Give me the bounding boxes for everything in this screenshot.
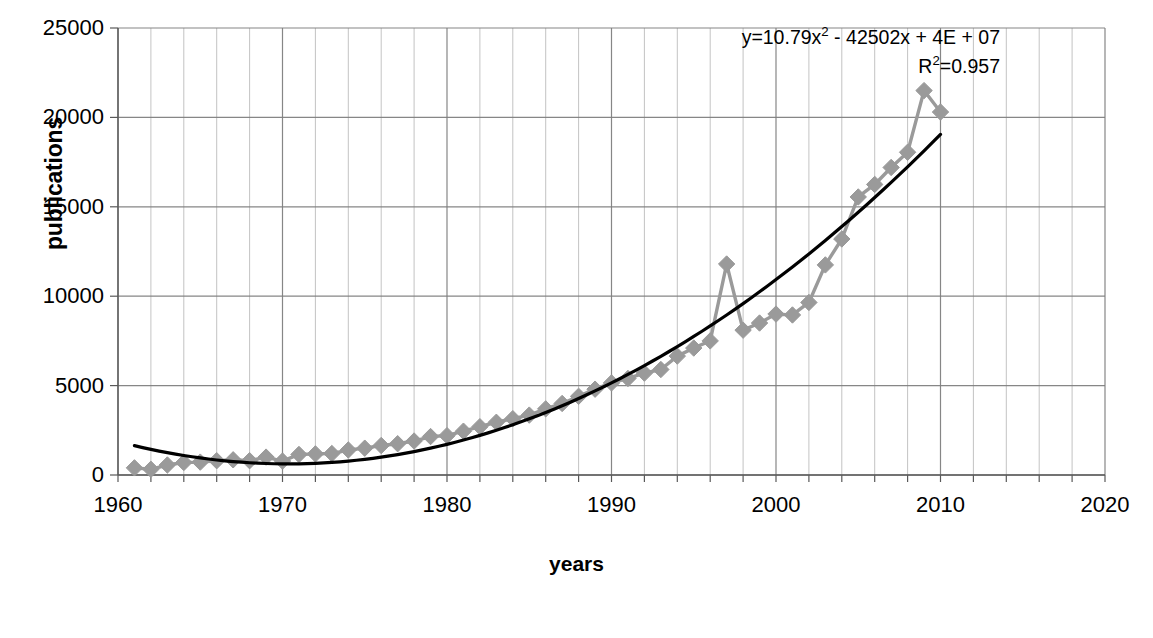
r-squared-label: R <box>918 54 932 76</box>
data-point-marker <box>126 460 142 476</box>
x-axis-tick-label: 1960 <box>63 492 173 518</box>
x-axis-tick-label: 2000 <box>721 492 831 518</box>
equation-prefix: y=10.79x <box>742 26 822 48</box>
trendline-equation-line: y=10.79x2 - 42502x + 4E + 07 <box>742 22 1000 51</box>
data-point-marker <box>324 445 340 461</box>
data-point-marker <box>340 442 356 458</box>
x-axis-title: years <box>0 552 1153 576</box>
data-point-marker <box>686 340 702 356</box>
r-squared-exponent: 2 <box>932 53 939 68</box>
data-point-marker <box>735 322 751 338</box>
data-point-marker <box>241 452 257 468</box>
data-point-marker <box>751 315 767 331</box>
y-axis-tick-label: 15000 <box>4 194 104 220</box>
plot-area <box>0 0 1153 638</box>
equation-exponent: 2 <box>821 24 828 39</box>
x-axis-tick-label: 1990 <box>557 492 667 518</box>
data-point-marker <box>159 457 175 473</box>
r-squared-line: R2=0.957 <box>742 51 1000 80</box>
data-point-marker <box>768 306 784 322</box>
data-point-marker <box>274 453 290 469</box>
trendline <box>134 134 940 463</box>
data-point-marker <box>307 446 323 462</box>
x-axis-tick-label: 1970 <box>228 492 338 518</box>
y-axis-tick-label: 0 <box>4 462 104 488</box>
data-point-marker <box>702 333 718 349</box>
equation-suffix: - 42502x + 4E + 07 <box>829 26 1000 48</box>
data-series-line <box>134 91 940 470</box>
data-point-marker <box>406 433 422 449</box>
y-axis-tick-label: 20000 <box>4 104 104 130</box>
y-axis-tick-label: 5000 <box>4 373 104 399</box>
x-axis-tick-label: 2020 <box>1050 492 1153 518</box>
y-axis-tick-label: 10000 <box>4 283 104 309</box>
data-point-marker <box>357 440 373 456</box>
data-point-marker <box>422 428 438 444</box>
x-axis-tick-label: 1980 <box>392 492 502 518</box>
y-axis-tick-labels: 0500010000150002000025000 <box>0 0 104 500</box>
r-squared-value: =0.957 <box>940 54 1000 76</box>
trendline-equation-annotation: y=10.79x2 - 42502x + 4E + 07 R2=0.957 <box>742 22 1000 80</box>
data-point-marker <box>373 437 389 453</box>
data-point-marker <box>817 257 833 273</box>
data-point-marker <box>389 436 405 452</box>
y-axis-tick-label: 25000 <box>4 15 104 41</box>
chart-container: publications years 050001000015000200002… <box>0 0 1153 638</box>
x-axis-tick-label: 2010 <box>886 492 996 518</box>
data-point-marker <box>718 256 734 272</box>
data-point-marker <box>291 446 307 462</box>
